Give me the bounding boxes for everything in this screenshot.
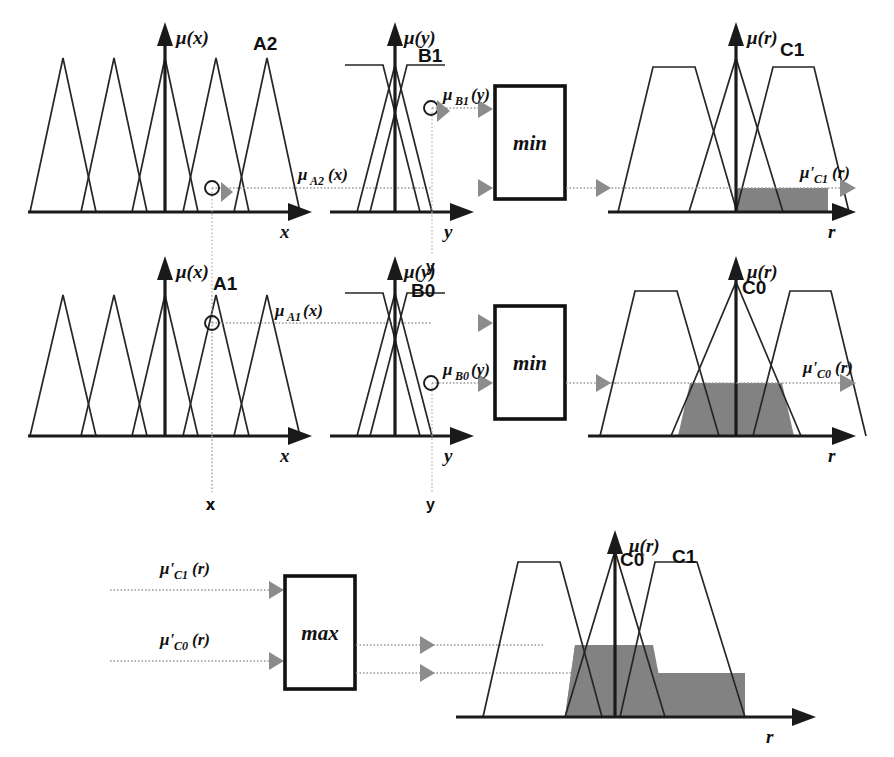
rule1-y-activation-sub: B1: [454, 94, 469, 108]
rule2-x-xaxis-arrow: [288, 427, 312, 445]
rule1-y-panel: μ(y) B1 y y μ B1 (y): [330, 22, 493, 275]
rule2-y-xaxis-arrow: [450, 427, 474, 445]
rule2-y-activation-mu: μ: [442, 360, 452, 379]
rule1-y-set-label: B1: [418, 45, 443, 66]
rule2-min-label: min: [513, 351, 547, 375]
rule1-group: μ(x) A2 x x μ A2 (x): [28, 22, 856, 513]
aggregation-result-set-label-left: C0: [620, 549, 644, 570]
rule2-y-var-label: y: [442, 445, 453, 466]
rule2-r-set-label: C0: [742, 277, 766, 298]
rule1-r-panel: μ(r) C1 r μ' C1 (r): [608, 22, 856, 242]
rule2-r-var-label: r: [828, 445, 836, 466]
rule1-y-activation-arg: (y): [471, 85, 490, 104]
aggregation-input-bottom-mu: μ': [159, 630, 174, 649]
rule1-y-xaxis-arrow: [450, 203, 474, 221]
rule1-min-operator[interactable]: min: [495, 86, 618, 199]
rule1-x-yaxis-arrow: [157, 22, 173, 46]
aggregation-group: μ' C1 (r) μ' C0 (r) max: [110, 530, 816, 747]
rule2-y-activation-arg: (y): [471, 360, 490, 379]
aggregation-max-label: max: [301, 621, 338, 645]
rule2-x-activation-label: μ A1 (x): [274, 301, 323, 324]
rule1-x-set-label: A2: [253, 33, 277, 54]
aggregation-max-operator[interactable]: max: [285, 576, 355, 689]
aggregation-result-set-label-right: C1: [672, 546, 697, 567]
rule2-y-activation-sub: B0: [454, 369, 469, 383]
fuzzy-inference-diagram: μ(x) A2 x x μ A2 (x): [0, 0, 894, 757]
aggregation-input-bottom: μ' C0 (r): [110, 630, 285, 670]
rule2-y-set-label: B0: [411, 280, 435, 301]
rule2-x-input-tick: x: [206, 496, 215, 513]
rule1-y-yaxis-arrow: [387, 22, 403, 46]
aggregation-input-top: μ' C1 (r): [110, 559, 285, 599]
rule2-x-set-label: A1: [213, 273, 238, 294]
rule2-r-output-mu: μ': [802, 358, 817, 377]
aggregation-input-bottom-arg: (r): [192, 630, 210, 649]
rule1-x-activation-mu: μ: [297, 165, 307, 184]
aggregation-input-top-sub: C1: [174, 568, 188, 582]
rule1-x-activation-arrow: [221, 182, 233, 202]
rule2-r-panel: μ(r) C0 r μ' C0 (r): [588, 256, 866, 466]
mf-curve-c-minus1: [618, 67, 737, 212]
diagram-canvas: μ(x) A2 x x μ A2 (x): [0, 0, 894, 757]
mf-curve-b-minus1-r2: [345, 293, 420, 436]
rule2-r-output-sub: C0: [817, 367, 831, 381]
rule1-r-output-mu: μ': [799, 163, 814, 182]
rule1-x-activation-arg: (x): [328, 165, 348, 184]
aggregation-output-arrow-bottom: [420, 664, 435, 682]
mf-curve-b-minus1: [345, 65, 420, 212]
aggregation-input-top-arrow: [269, 581, 284, 599]
rule2-x-var-label: x: [279, 445, 290, 466]
aggregation-input-top-arg: (r): [192, 559, 210, 578]
aggregation-input-bottom-arrow: [269, 652, 284, 670]
rule1-x-activation-arrow-box: [478, 179, 493, 197]
rule1-r-output-sub: C1: [814, 172, 828, 186]
rule1-r-xaxis-arrow: [832, 203, 856, 221]
aggregation-input-bottom-sub: C0: [174, 639, 188, 653]
rule2-y-yaxis-arrow: [387, 256, 403, 280]
rule1-x-axis-ylabel: μ(x): [175, 27, 209, 49]
rule2-x-yaxis-arrow: [157, 256, 173, 280]
rule2-r-output-arg: (r): [835, 358, 853, 377]
rule1-x-activation-label: μ A2 (x): [297, 165, 348, 188]
rule1-r-var-label: r: [828, 221, 836, 242]
rule2-x-activation-sub: A1: [286, 310, 301, 324]
rule1-r-output-arg: (r): [832, 163, 850, 182]
aggregation-result-xaxis-arrow: [792, 708, 816, 726]
rule2-x-activation-arg: (x): [303, 301, 323, 320]
rule1-y-activation-mu: μ: [442, 85, 452, 104]
rule1-x-activation-sub: A2: [309, 174, 324, 188]
rule2-y-input-tick: y: [426, 496, 435, 513]
aggregation-input-top-mu: μ': [159, 559, 174, 578]
mf-curve-b1-r2: [370, 293, 445, 436]
rule2-y-panel: μ(y) B0 y y μ B0 (y): [330, 256, 493, 513]
aggregation-result-panel: μ(r) C0 C1 r: [456, 530, 816, 747]
rule1-y-var-label: y: [442, 221, 453, 242]
rule2-group: μ(x) A1 x x μ A1 (x) μ(y) B: [28, 256, 866, 513]
rule1-r-yaxis-arrow: [728, 22, 744, 46]
rule1-x-xaxis-arrow: [288, 203, 312, 221]
rule2-min-operator[interactable]: min: [495, 306, 618, 419]
rule1-min-label: min: [513, 131, 547, 155]
rule1-r-axis-ylabel: μ(r): [746, 27, 778, 49]
rule1-x-var-label: x: [279, 221, 290, 242]
rule1-min-output-arrow: [596, 179, 611, 197]
rule2-x-axis-ylabel: μ(x): [175, 261, 209, 283]
rule1-r-set-label: C1: [780, 39, 805, 60]
rule2-x-activation-arrow-box: [478, 314, 493, 332]
rule2-r-xaxis-arrow: [832, 427, 856, 445]
rule2-x-activation-mu: μ: [274, 301, 284, 320]
rule1-x-panel: μ(x) A2 x x μ A2 (x): [28, 22, 432, 513]
mf-curve-b1: [370, 65, 445, 212]
aggregation-output-arrow-top: [420, 636, 435, 654]
aggregation-result-var-label: r: [766, 726, 774, 747]
